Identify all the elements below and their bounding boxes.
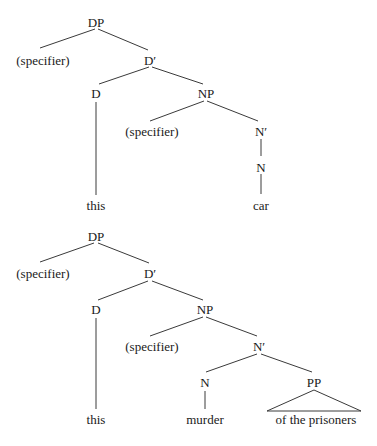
node-np-specifier: (specifier) [125, 339, 178, 354]
syntax-trees-diagram: DP (specifier) D′ D NP (specifier) N′ N … [0, 0, 377, 446]
node-d: D [91, 86, 100, 101]
node-np-specifier: (specifier) [125, 124, 178, 139]
edge-np-to-specifier [150, 317, 203, 336]
edge-dbar-to-np [152, 281, 203, 300]
edge-nbar-to-n [206, 354, 257, 372]
node-dp-specifier: (specifier) [16, 53, 69, 68]
edge-dp-to-specifier [40, 243, 94, 262]
edge-dp-to-dbar [98, 29, 148, 50]
node-n: N [256, 160, 266, 175]
node-d: D [91, 302, 100, 317]
node-d-bar: D′ [144, 266, 156, 281]
node-np: NP [198, 86, 215, 101]
edge-np-to-nbar [206, 317, 257, 336]
node-pp: PP [307, 375, 321, 390]
node-n-bar: N′ [253, 339, 265, 354]
edge-dbar-to-d [98, 281, 148, 300]
edge-np-to-nbar [207, 101, 258, 121]
word-this: this [87, 198, 106, 213]
node-dp: DP [88, 229, 105, 244]
node-dp-specifier: (specifier) [16, 266, 69, 281]
pp-triangle [267, 390, 361, 411]
node-n: N [200, 375, 210, 390]
node-n-bar: N′ [255, 124, 267, 139]
word-this: this [87, 412, 106, 427]
tree-this-murder-of-the-prisoners: DP (specifier) D′ D NP (specifier) N′ N … [16, 229, 361, 427]
word-car: car [253, 198, 270, 213]
word-murder: murder [186, 412, 224, 427]
edge-dp-to-dbar [98, 243, 149, 263]
tree-this-car: DP (specifier) D′ D NP (specifier) N′ N … [16, 15, 269, 213]
node-np: NP [197, 302, 214, 317]
edge-dbar-to-d [99, 67, 149, 84]
edge-dbar-to-np [152, 67, 203, 84]
node-d-bar: D′ [144, 53, 156, 68]
phrase-of-the-prisoners: of the prisoners [276, 412, 357, 427]
node-dp: DP [88, 15, 105, 30]
edge-np-to-specifier [150, 101, 204, 121]
edge-dp-to-specifier [40, 29, 95, 48]
edge-nbar-to-pp [261, 354, 312, 372]
